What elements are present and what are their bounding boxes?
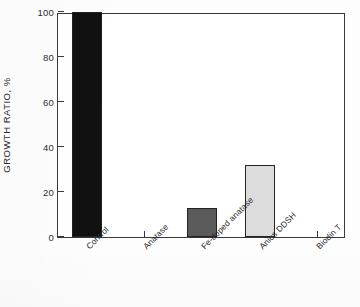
y-tick: 20: [58, 191, 64, 192]
y-tick: 0: [58, 236, 64, 237]
bar-control: [72, 12, 102, 237]
y-tick: 60: [58, 101, 64, 102]
y-tick-label: 80: [43, 52, 54, 63]
y-tick-label: 100: [38, 7, 54, 18]
y-tick-label: 0: [49, 232, 54, 243]
y-tick: 100: [58, 11, 64, 12]
y-tick: 80: [58, 56, 64, 57]
chart-page: GROWTH RATIO, % 020406080100 ControlAnat…: [0, 0, 360, 307]
y-tick: 40: [58, 146, 64, 147]
x-tick: [317, 231, 318, 237]
y-axis-title: GROWTH RATIO, %: [1, 77, 12, 172]
y-tick-label: 40: [43, 142, 54, 153]
x-tick: [144, 231, 145, 237]
plot-area: 020406080100: [57, 13, 345, 238]
y-tick-label: 60: [43, 97, 54, 108]
y-tick-label: 20: [43, 187, 54, 198]
